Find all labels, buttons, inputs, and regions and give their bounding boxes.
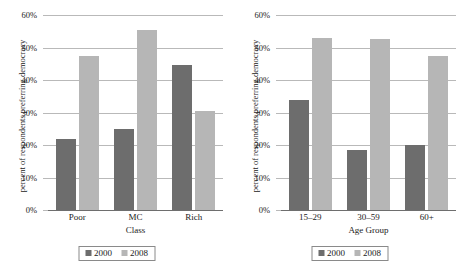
x-axis-label: Class <box>48 225 223 235</box>
chart-panel-age-group: percent of respondents preferring democr… <box>233 6 466 279</box>
x-tick-label: 30–59 <box>339 212 397 222</box>
y-tick-label: 20% <box>254 140 270 150</box>
bar-group <box>289 15 332 210</box>
bar-group <box>114 15 157 210</box>
y-tick: 0% <box>276 210 281 211</box>
bar-2000[interactable] <box>289 100 309 211</box>
bar-2008[interactable] <box>312 38 332 210</box>
bar-2000[interactable] <box>172 65 192 210</box>
bar-group <box>172 15 215 210</box>
bar-group <box>56 15 99 210</box>
bar-2000[interactable] <box>56 139 76 211</box>
bar-2000[interactable] <box>405 145 425 210</box>
bar-group <box>347 15 390 210</box>
x-tick-label: MC <box>106 212 164 222</box>
bar-2008[interactable] <box>428 56 448 210</box>
bar-2008[interactable] <box>195 111 215 210</box>
bar-group <box>405 15 448 210</box>
x-tick-labels: Poor MC Rich <box>48 212 223 222</box>
y-tick-label: 60% <box>21 10 37 20</box>
plot-area-class: 60% 50% 40% 30% 20% 10% 0% <box>48 15 223 210</box>
legend-swatch-2000-icon <box>318 250 324 256</box>
legend-swatch-2000-icon <box>85 250 91 256</box>
y-tick-label: 10% <box>254 173 270 183</box>
x-axis-label: Age Group <box>281 225 456 235</box>
legend-swatch-2008-icon <box>354 250 360 256</box>
bar-group-container <box>281 15 456 210</box>
bar-group-container <box>48 15 223 210</box>
x-tick-label: Rich <box>165 212 223 222</box>
legend-label-2008: 2008 <box>130 248 148 258</box>
y-tick-label: 10% <box>21 173 37 183</box>
y-tick-label: 0% <box>26 205 37 215</box>
y-tick-label: 20% <box>21 140 37 150</box>
bar-2008[interactable] <box>370 39 390 210</box>
x-tick-label: 60+ <box>398 212 456 222</box>
x-axis-line <box>44 210 223 211</box>
x-tick-label: 15–29 <box>281 212 339 222</box>
legend-label-2000: 2000 <box>94 248 112 258</box>
bar-2000[interactable] <box>347 150 367 210</box>
x-axis-line <box>277 210 456 211</box>
y-tick-label: 40% <box>254 75 270 85</box>
y-tick: 0% <box>43 210 48 211</box>
x-tick-labels: 15–29 30–59 60+ <box>281 212 456 222</box>
chart-panel-class: percent of respondents preferring democr… <box>0 6 233 279</box>
y-tick-label: 30% <box>254 108 270 118</box>
legend-class-chart: 2000 2008 <box>78 246 155 261</box>
legend-label-2008: 2008 <box>363 248 381 258</box>
y-tick-label: 50% <box>21 43 37 53</box>
y-tick-label: 30% <box>21 108 37 118</box>
y-tick-label: 50% <box>254 43 270 53</box>
bar-2008[interactable] <box>79 56 99 210</box>
figure-container: percent of respondents preferring democr… <box>0 6 466 279</box>
legend-entry-2000[interactable]: 2000 <box>85 248 112 258</box>
legend-entry-2008[interactable]: 2008 <box>121 248 148 258</box>
legend-age-group-chart: 2000 2008 <box>311 246 388 261</box>
legend-label-2000: 2000 <box>327 248 345 258</box>
bar-2000[interactable] <box>114 129 134 210</box>
legend-swatch-2008-icon <box>121 250 127 256</box>
plot-area-age-group: 60% 50% 40% 30% 20% 10% 0% <box>281 15 456 210</box>
x-tick-label: Poor <box>48 212 106 222</box>
y-tick-label: 40% <box>21 75 37 85</box>
y-tick-label: 60% <box>254 10 270 20</box>
legend-entry-2008[interactable]: 2008 <box>354 248 381 258</box>
y-tick-label: 0% <box>259 205 270 215</box>
legend-entry-2000[interactable]: 2000 <box>318 248 345 258</box>
bar-2008[interactable] <box>137 30 157 210</box>
